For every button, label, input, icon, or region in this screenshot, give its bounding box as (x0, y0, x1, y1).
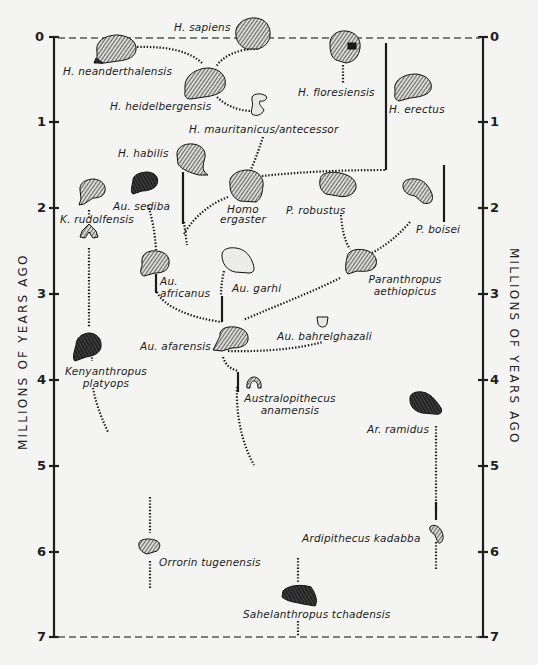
label-rudolfensis: K. rudolfensis (60, 214, 134, 225)
label-ramidus: Ar. ramidus (367, 424, 429, 435)
label-floresiensis: H. floresiensis (298, 87, 375, 98)
label-neanderthalensis: H. neanderthalensis (63, 66, 172, 77)
skull-floresiensis-icon (330, 31, 360, 63)
skull-erectus-icon (395, 74, 432, 101)
label-boisei: P. boisei (416, 224, 460, 235)
skull-platyops-icon (73, 333, 101, 361)
tick-left-4: 4 (37, 372, 46, 387)
label-heidelbergensis: H. heidelbergensis (110, 101, 211, 112)
label-platyops: Kenyanthropus platyops (60, 365, 152, 389)
skull-africanus-icon (141, 251, 169, 276)
label-platyops-line2: platyops (60, 377, 152, 389)
label-aethiopicus-line1: Paranthropus (350, 273, 460, 285)
skull-garhi-icon (222, 248, 254, 273)
hominin-timeline-diagram (0, 0, 538, 665)
fossil-mauritanicus-icon (251, 94, 266, 116)
label-africanus-line1: Au. (160, 275, 210, 287)
skull-boisei-icon (403, 179, 433, 204)
label-anamensis: Australopithecus anamensis (242, 392, 338, 416)
label-aethiopicus: Paranthropus aethiopicus (350, 273, 460, 297)
fossil-bahrelghazali-icon (317, 317, 328, 327)
label-afarensis: Au. afarensis (140, 341, 211, 352)
tick-right-5: 5 (490, 458, 499, 473)
label-ergaster: Homo ergaster (218, 204, 268, 224)
tick-left-2: 2 (37, 200, 46, 215)
tick-left-1: 1 (37, 114, 46, 129)
skull-neanderthalensis-icon (94, 35, 136, 63)
right-axis-title: MILLIONS OF YEARS AGO (507, 248, 521, 445)
label-sapiens: H. sapiens (174, 22, 231, 33)
fossil-kadabba-icon (430, 525, 443, 543)
skull-sediba-icon (131, 172, 157, 194)
label-habilis: H. habilis (118, 148, 169, 159)
label-platyops-line1: Kenyanthropus (60, 365, 152, 377)
skull-aethiopicus-icon (346, 249, 377, 274)
tick-left-5: 5 (37, 458, 46, 473)
label-africanus: Au. africanus (160, 275, 210, 299)
label-mauritanicus: H. mauritanicus/antecessor (189, 124, 338, 135)
tick-left-3: 3 (37, 286, 46, 301)
label-sediba: Au. sediba (113, 201, 170, 212)
label-bahrelghazali: Au. bahrelghazali (277, 331, 372, 342)
skull-habilis-icon (177, 144, 208, 175)
fossil-orrorin-icon (139, 539, 160, 554)
tick-right-6: 6 (490, 544, 499, 559)
tick-right-0: 0 (490, 29, 499, 44)
tick-right-2: 2 (490, 200, 499, 215)
fossil-anamensis-icon (247, 377, 261, 388)
label-robustus: P. robustus (286, 205, 346, 216)
tick-left-7: 7 (37, 629, 46, 644)
skull-robustus-icon (320, 172, 356, 196)
tick-left-6: 6 (37, 544, 46, 559)
label-aethiopicus-line2: aethiopicus (350, 285, 460, 297)
label-anamensis-line2: anamensis (242, 404, 338, 416)
left-axis (49, 37, 59, 638)
tick-right-1: 1 (490, 114, 499, 129)
skull-rudolfensis-icon (79, 179, 105, 238)
label-ergaster-line2: ergaster (218, 214, 268, 224)
skull-ergaster-icon (230, 170, 263, 202)
label-africanus-line2: africanus (160, 287, 210, 299)
skull-heidelbergensis-icon (185, 68, 226, 99)
label-garhi: Au. garhi (232, 283, 281, 294)
left-axis-title: MILLIONS OF YEARS AGO (16, 253, 30, 450)
tick-right-7: 7 (490, 629, 499, 644)
tick-left-0: 0 (35, 29, 44, 44)
tick-right-4: 4 (490, 372, 499, 387)
skull-ramidus-icon (410, 392, 442, 414)
right-axis (478, 37, 488, 638)
skull-sapiens-icon (236, 18, 270, 49)
skull-afarensis-icon (213, 327, 248, 351)
label-sahelanthropus: Sahelanthropus tchadensis (243, 609, 390, 620)
tick-right-3: 3 (490, 286, 499, 301)
label-kadabba: Ardipithecus kadabba (302, 533, 421, 544)
skull-sahelanthropus-icon (282, 585, 316, 606)
label-anamensis-line1: Australopithecus (242, 392, 338, 404)
label-orrorin: Orrorin tugenensis (159, 557, 261, 568)
label-erectus: H. erectus (389, 104, 445, 115)
